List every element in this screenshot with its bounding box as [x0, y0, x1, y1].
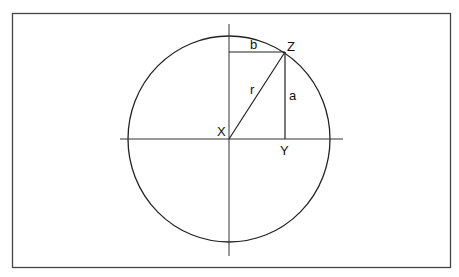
- label-y: Y: [280, 143, 289, 158]
- circle-diagram: X Z Y r a b: [0, 0, 459, 277]
- label-x: X: [217, 124, 226, 139]
- radius-line: [229, 52, 285, 139]
- label-z: Z: [287, 39, 295, 54]
- label-r: r: [250, 82, 255, 97]
- label-a: a: [289, 88, 297, 103]
- label-b: b: [250, 37, 257, 52]
